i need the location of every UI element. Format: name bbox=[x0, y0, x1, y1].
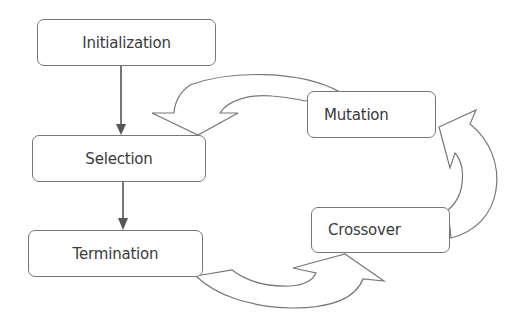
node-crossover: Crossover bbox=[311, 207, 450, 253]
node-initialization: Initialization bbox=[37, 19, 216, 66]
arrow-termination-to-crossover bbox=[196, 254, 384, 308]
node-mutation: Mutation bbox=[307, 91, 436, 138]
node-label: Termination bbox=[73, 245, 159, 263]
arrow-selection-to-termination bbox=[118, 182, 128, 230]
node-label: Initialization bbox=[82, 34, 171, 52]
node-termination: Termination bbox=[28, 230, 203, 277]
node-selection: Selection bbox=[32, 135, 206, 182]
node-label: Crossover bbox=[328, 221, 401, 239]
arrow-initialization-to-selection bbox=[116, 66, 126, 135]
node-label: Mutation bbox=[324, 106, 389, 124]
node-label: Selection bbox=[85, 150, 152, 168]
